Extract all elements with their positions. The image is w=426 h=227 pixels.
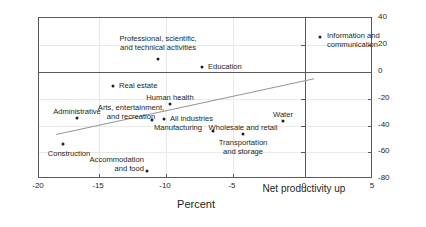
- ytick--40: [368, 126, 372, 127]
- datapoint-label-human-health: Human health: [146, 93, 193, 102]
- label-line-1: Accommodation: [90, 155, 144, 164]
- datapoint-label-accommodation-and-food: Accommodation and food: [90, 155, 144, 173]
- label-line-2: and technical activities: [120, 43, 196, 52]
- x-axis-title-main: Percent: [177, 198, 215, 210]
- xtick--5: [233, 174, 234, 178]
- datapoint-construction[interactable]: [62, 143, 65, 146]
- datapoint-water[interactable]: [282, 120, 285, 123]
- ytick--20: [368, 99, 372, 100]
- datapoint-label-information-and-communication: Information and communication: [327, 31, 380, 49]
- datapoint-label-wholesale-and-retail: Wholesale and retail: [209, 123, 278, 132]
- datapoint-label-water: Water: [273, 110, 293, 119]
- xtick--15: [99, 174, 100, 178]
- label-line-2: and storage: [223, 147, 263, 156]
- zero-line-vertical: [305, 18, 306, 177]
- y-tick-label--60: -60: [378, 147, 390, 155]
- y-tick-label-40: 40: [378, 13, 387, 21]
- label-line-1: Transportation: [219, 138, 268, 147]
- datapoint-wholesale-retail-transportation[interactable]: [242, 133, 245, 136]
- ytick-inner--40: [301, 126, 305, 127]
- datapoint-label-all-industries: All industries: [170, 114, 213, 123]
- datapoint-label-real-estate: Real estate: [119, 81, 157, 90]
- scatter-chart-figure: Net permanent working from home Percent: [0, 0, 426, 227]
- label-line-1: Information and: [327, 31, 380, 40]
- gridline-x--15: [99, 18, 100, 177]
- datapoint-label-professional-scientific-technical: Professional, scientific, and technical …: [119, 34, 196, 52]
- label-line-1: Professional, scientific,: [119, 34, 196, 43]
- datapoint-information-and-communication[interactable]: [319, 36, 322, 39]
- datapoint-label-manufacturing: Manufacturing: [154, 123, 202, 132]
- label-line-2: and food: [114, 164, 144, 173]
- label-line-1: Arts, entertainment,: [98, 103, 164, 112]
- datapoint-all-industries[interactable]: [163, 118, 166, 121]
- x-tick-label--10: -10: [159, 182, 171, 190]
- datapoint-real-estate[interactable]: [112, 85, 115, 88]
- y-tick-label--40: -40: [378, 121, 390, 129]
- datapoint-education[interactable]: [201, 66, 204, 69]
- x-tick-label--5: -5: [228, 182, 235, 190]
- datapoint-label-education: Education: [208, 62, 242, 71]
- gridline-y--20: [39, 99, 371, 100]
- x-tick-label--20: -20: [32, 182, 44, 190]
- y-tick-label-0: 0: [378, 67, 382, 75]
- datapoint-label-arts-entertainment-recreation: Arts, entertainment, and recreation: [98, 103, 164, 121]
- ytick-inner--60: [301, 152, 305, 153]
- ytick--60: [368, 152, 372, 153]
- y-tick-label--20: -20: [378, 94, 390, 102]
- datapoint-label-administrative: Administrative: [53, 107, 101, 116]
- xtick-0: [305, 174, 306, 178]
- datapoint-accommodation-and-food[interactable]: [146, 170, 149, 173]
- label-line-2: communication: [327, 40, 378, 49]
- datapoint-label-construction: Construction: [48, 149, 91, 158]
- label-line-2: and recreation: [107, 112, 156, 121]
- datapoint-label-transportation-and-storage: Transportation and storage: [219, 138, 268, 156]
- ytick-inner--20: [301, 99, 305, 100]
- datapoint-human-health[interactable]: [169, 103, 172, 106]
- plot-area: Information and communication Profession…: [38, 17, 372, 178]
- y-tick-label--80: -80: [378, 174, 390, 182]
- x-axis-title-secondary: Net productivity up: [263, 183, 346, 194]
- x-tick-label--15: -15: [92, 182, 104, 190]
- xtick--10: [166, 174, 167, 178]
- x-tick-label-5: 5: [370, 182, 374, 190]
- ytick-inner-20: [301, 45, 305, 46]
- zero-line-horizontal: [39, 72, 371, 73]
- datapoint-professional-scientific-technical[interactable]: [157, 58, 160, 61]
- y-tick-label-20: 20: [378, 40, 387, 48]
- datapoint-administrative[interactable]: [76, 117, 79, 120]
- gridline-y-20: [39, 45, 371, 46]
